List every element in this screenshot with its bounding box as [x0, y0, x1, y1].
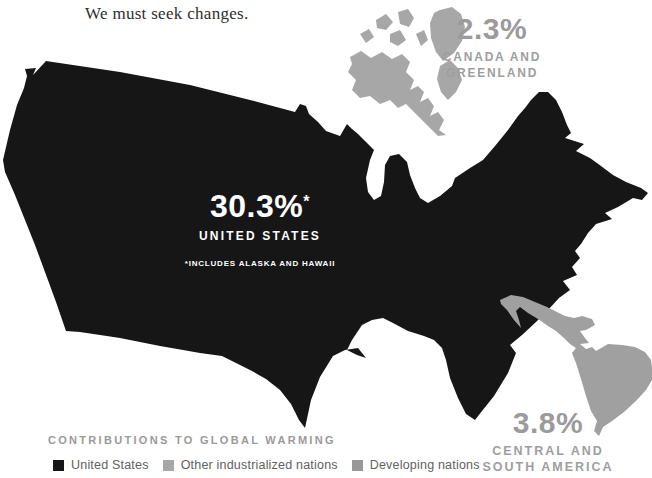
legend-item-developing: Developing nations	[352, 458, 480, 472]
legend-swatch-developing	[352, 460, 363, 471]
canada-label-line2: GREENLAND	[412, 65, 572, 81]
latin-america-label-line2: SOUTH AMERICA	[463, 459, 633, 475]
infographic-canvas: We must seek changes. 2.3% CANADA AND GR…	[0, 0, 652, 478]
canada-label-block: 2.3% CANADA AND GREENLAND	[412, 14, 572, 81]
canada-percentage: 2.3%	[412, 14, 572, 44]
caption-text: We must seek changes.	[85, 4, 249, 24]
us-footnote: *INCLUDES ALASKA AND HAWAII	[172, 259, 348, 268]
legend-swatch-united-states	[53, 460, 64, 471]
legend-label-developing: Developing nations	[370, 458, 480, 472]
legend-item-united-states: United States	[53, 458, 149, 472]
canada-label-line1: CANADA AND	[412, 49, 572, 65]
us-percentage: 30.3%*	[172, 190, 348, 222]
us-label-block: 30.3%* UNITED STATES *INCLUDES ALASKA AN…	[172, 190, 348, 268]
us-asterisk: *	[303, 193, 310, 210]
legend-label-other-industrialized: Other industrialized nations	[181, 458, 338, 472]
latin-america-label-line1: CENTRAL AND	[463, 443, 633, 459]
chart-title: CONTRIBUTIONS TO GLOBAL WARMING	[48, 434, 336, 446]
latin-america-label-block: 3.8% CENTRAL AND SOUTH AMERICA	[463, 408, 633, 475]
legend-swatch-other-industrialized	[163, 460, 174, 471]
legend-label-united-states: United States	[71, 458, 149, 472]
legend: United States Other industrialized natio…	[53, 458, 480, 472]
us-label: UNITED STATES	[172, 228, 348, 244]
legend-item-other-industrialized: Other industrialized nations	[163, 458, 338, 472]
latin-america-percentage: 3.8%	[463, 408, 633, 438]
